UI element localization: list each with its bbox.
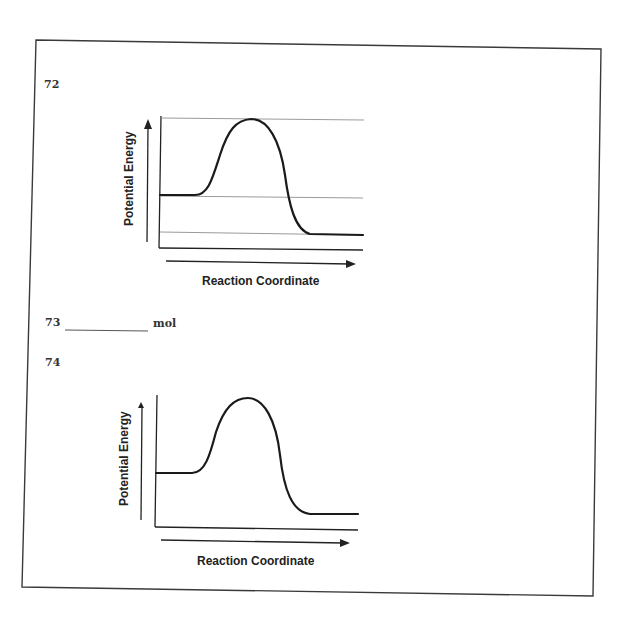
answer-sheet: 72 Potential Energy Reaction Coordinate … (0, 0, 629, 622)
unit-label-mol: mol (153, 317, 176, 330)
y-axis-label: Potential Energy (117, 411, 131, 506)
question-73-number: 73 (45, 316, 60, 329)
x-axis (155, 527, 358, 530)
energy-diagram-74: Potential Energy Reaction Coordinate (117, 395, 358, 568)
y-axis (155, 395, 157, 527)
arrow-right-icon (340, 539, 350, 547)
energy-diagram-72: Potential Energy Reaction Coordinate (122, 116, 364, 288)
guide-line-peak (161, 118, 364, 120)
y-axis-label: Potential Energy (122, 131, 136, 226)
arrow-up-icon (138, 402, 144, 408)
arrow-right-icon (346, 260, 356, 268)
question-74-number: 74 (45, 356, 61, 369)
y-axis-arrow (141, 406, 142, 520)
guide-line-reactants (160, 196, 363, 198)
x-axis-arrow (161, 540, 344, 543)
x-axis-label: Reaction Coordinate (202, 274, 320, 288)
question-72-number: 72 (44, 78, 59, 91)
answer-blank-73[interactable] (65, 330, 148, 331)
arrow-up-icon (144, 119, 152, 129)
sheet-border (22, 40, 601, 596)
y-axis-arrow (147, 126, 148, 242)
x-axis-label: Reaction Coordinate (197, 554, 315, 568)
energy-curve (156, 398, 358, 514)
x-axis-arrow (166, 261, 350, 264)
energy-curve (160, 119, 363, 235)
x-axis (159, 248, 363, 250)
y-axis (159, 116, 161, 248)
